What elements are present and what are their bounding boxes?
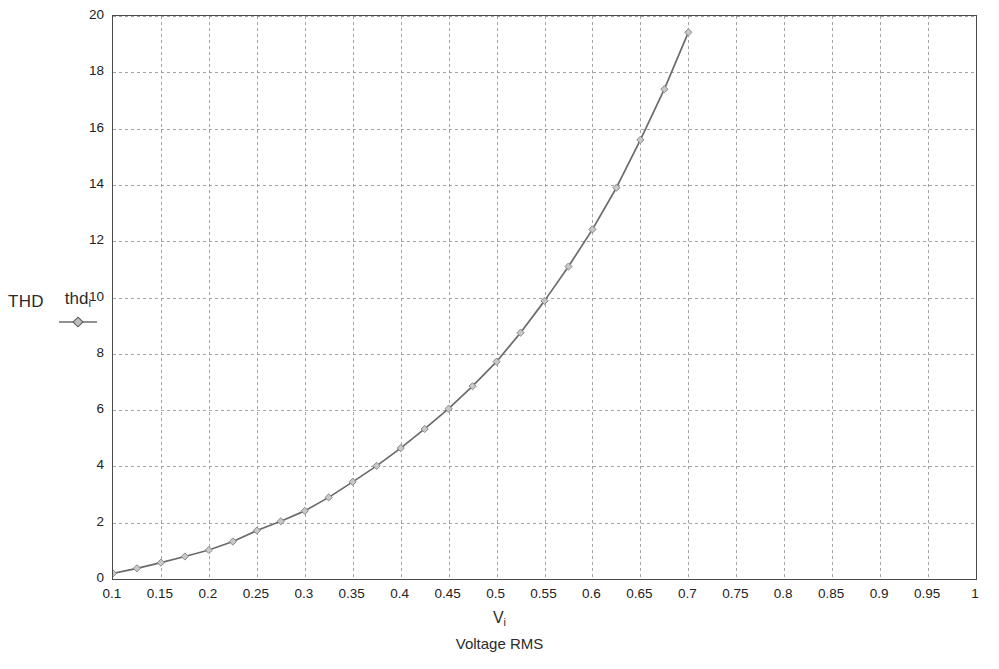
x-axis-symbol-subscript: i [504, 616, 506, 628]
x-axis-title: Voltage RMS [0, 633, 999, 655]
y-tick-label: 6 [60, 401, 104, 416]
y-tick-label: 10 [60, 289, 104, 304]
data-point-marker [133, 565, 140, 572]
y-tick-label: 14 [60, 176, 104, 191]
y-tick-label: 18 [60, 63, 104, 78]
data-point-marker [661, 86, 668, 93]
y-tick-label: 8 [60, 345, 104, 360]
y-tick-label: 12 [60, 232, 104, 247]
x-axis-symbol-text: V [493, 609, 504, 626]
data-point-marker [157, 559, 164, 566]
series-line-thd [113, 32, 688, 573]
x-axis-symbol: Vi [0, 608, 999, 632]
y-tick-label: 20 [60, 7, 104, 22]
x-axis-label-group: Vi Voltage RMS [0, 608, 999, 655]
y-gridlines [113, 17, 976, 524]
data-point-marker [205, 546, 212, 553]
data-point-marker [637, 136, 644, 143]
y-tick-label: 0 [60, 570, 104, 585]
y-axis-title: THD [8, 290, 44, 314]
data-point-marker [301, 507, 308, 514]
legend-marker-swatch [58, 315, 98, 329]
y-tick-label: 4 [60, 457, 104, 472]
series-markers-thd [113, 29, 692, 577]
data-point-marker [113, 570, 117, 577]
data-point-marker [229, 538, 236, 545]
plot-svg [113, 16, 976, 579]
data-point-marker [181, 553, 188, 560]
y-tick-label: 16 [60, 120, 104, 135]
data-point-marker [253, 527, 260, 534]
plot-area [112, 15, 977, 580]
x-gridlines [162, 16, 977, 579]
chart-figure: THD thdi 02468101214161820 0.10.150.20.2… [0, 0, 999, 669]
data-point-marker [685, 29, 692, 36]
y-tick-label: 2 [60, 514, 104, 529]
x-tick-label: 1 [945, 586, 999, 601]
